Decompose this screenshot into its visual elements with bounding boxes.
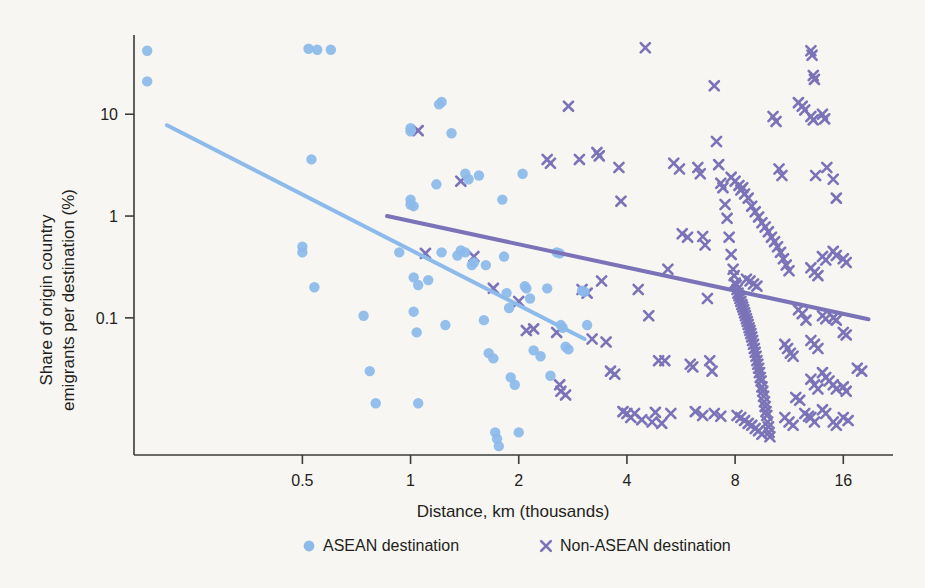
x-tick-label: 2 xyxy=(514,472,523,489)
data-point-circle xyxy=(446,128,456,138)
data-point-circle xyxy=(514,427,524,437)
data-point-circle xyxy=(297,247,307,257)
data-point-circle xyxy=(463,174,473,184)
legend-label: ASEAN destination xyxy=(323,537,459,554)
data-point-circle xyxy=(542,283,552,293)
data-point-circle xyxy=(494,441,504,451)
x-tick-label: 8 xyxy=(731,472,740,489)
data-point-circle xyxy=(479,315,489,325)
data-point-circle xyxy=(142,76,152,86)
data-point-circle xyxy=(545,371,555,381)
data-point-circle xyxy=(312,45,322,55)
data-point-circle xyxy=(306,154,316,164)
x-tick-label: 16 xyxy=(834,472,852,489)
data-point-circle xyxy=(371,398,381,408)
y-tick-label: 1 xyxy=(109,208,118,225)
data-point-circle xyxy=(411,327,421,337)
data-point-circle xyxy=(436,247,446,257)
data-point-circle xyxy=(431,179,441,189)
data-point-circle xyxy=(408,306,418,316)
y-tick-label: 10 xyxy=(100,106,118,123)
data-point-circle xyxy=(517,169,527,179)
data-point-circle xyxy=(510,380,520,390)
data-point-circle xyxy=(303,44,313,54)
data-point-circle xyxy=(563,344,573,354)
data-point-circle xyxy=(579,287,589,297)
legend-marker-circle xyxy=(304,541,315,552)
data-point-circle xyxy=(460,247,470,257)
data-point-circle xyxy=(142,46,152,56)
data-point-circle xyxy=(499,251,509,261)
data-point-circle xyxy=(535,351,545,361)
data-point-circle xyxy=(405,123,415,133)
data-point-circle xyxy=(408,201,418,211)
data-point-circle xyxy=(326,45,336,55)
x-tick-label: 4 xyxy=(622,472,631,489)
x-tick-label: 0.5 xyxy=(291,472,313,489)
data-point-circle xyxy=(488,353,498,363)
data-point-circle xyxy=(440,320,450,330)
data-point-circle xyxy=(309,282,319,292)
data-point-circle xyxy=(358,311,368,321)
data-point-circle xyxy=(394,247,404,257)
y-axis-title-line2: emigrants per destination (%) xyxy=(59,189,78,411)
data-point-circle xyxy=(365,366,375,376)
data-point-circle xyxy=(525,293,535,303)
y-tick-label: 0.1 xyxy=(96,310,118,327)
x-axis-title: Distance, km (thousands) xyxy=(417,502,610,521)
data-point-circle xyxy=(497,194,507,204)
data-point-circle xyxy=(436,97,446,107)
data-point-circle xyxy=(481,260,491,270)
chart-background xyxy=(0,0,925,588)
data-point-circle xyxy=(423,275,433,285)
scatter-chart-figure: 0.51248161010.1 Share of origin country … xyxy=(0,0,925,588)
x-tick-label: 1 xyxy=(406,472,415,489)
data-point-circle xyxy=(413,280,423,290)
data-point-circle xyxy=(469,257,479,267)
data-point-circle xyxy=(474,170,484,180)
data-point-circle xyxy=(413,398,423,408)
data-point-circle xyxy=(582,320,592,330)
y-axis-title-line1: Share of origin country xyxy=(37,214,56,386)
legend-label: Non-ASEAN destination xyxy=(560,537,731,554)
data-point-circle xyxy=(520,281,530,291)
